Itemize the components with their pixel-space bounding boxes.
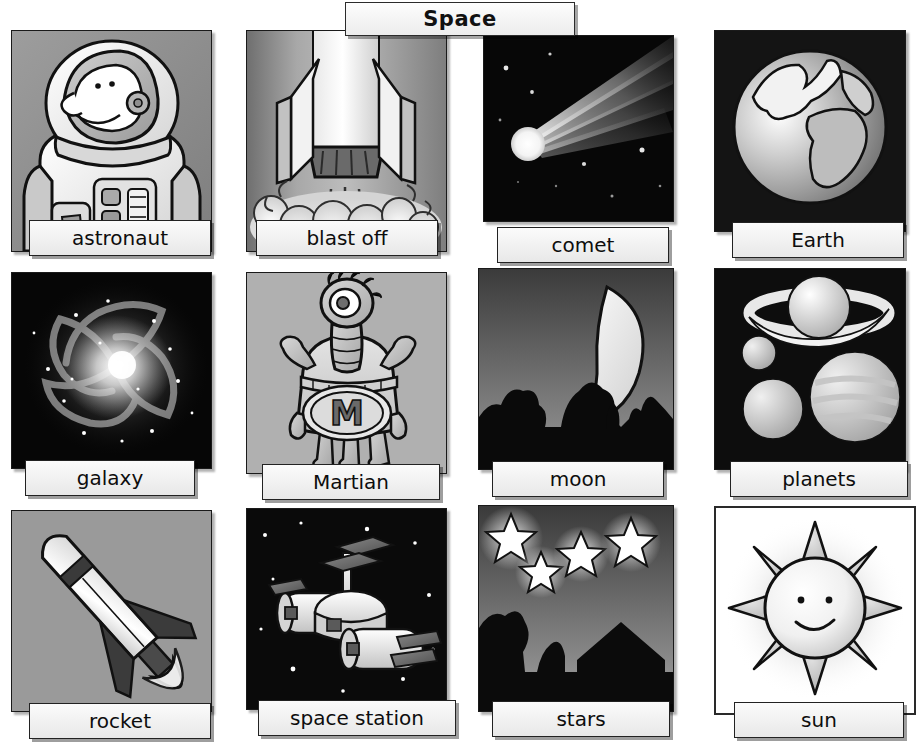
card-label-earth: Earth	[732, 222, 904, 258]
card-stars[interactable]: stars	[478, 505, 683, 745]
planets-illustration	[715, 269, 905, 469]
card-sun[interactable]: sun	[714, 506, 916, 746]
card-image-moon	[478, 268, 674, 470]
card-label-moon: moon	[492, 461, 664, 497]
card-image-astronaut	[11, 30, 212, 252]
rocket-launch-illustration	[247, 31, 446, 251]
card-martian[interactable]: M Martian	[246, 272, 456, 502]
card-image-galaxy	[11, 272, 212, 469]
card-image-comet	[483, 35, 674, 222]
card-image-sun	[714, 506, 916, 715]
card-image-planets	[714, 268, 906, 470]
martian-alien-illustration: M	[247, 273, 446, 473]
spiral-galaxy-photo	[12, 273, 211, 468]
card-label-stars: stars	[492, 701, 670, 737]
card-label-astronaut: astronaut	[29, 220, 211, 256]
card-blast-off[interactable]: blast off	[246, 30, 456, 265]
card-image-earth	[714, 30, 906, 232]
stars-night-illustration	[479, 506, 673, 711]
card-rocket[interactable]: rocket	[11, 510, 221, 745]
card-label-sun: sun	[734, 702, 904, 738]
card-comet[interactable]: comet	[483, 35, 683, 265]
rocket-illustration	[12, 511, 211, 711]
svg-text:M: M	[330, 393, 364, 433]
astronaut-illustration	[12, 31, 211, 251]
card-image-blast-off	[246, 30, 447, 252]
card-image-rocket	[11, 510, 212, 712]
card-label-space-station: space station	[258, 700, 456, 736]
space-station-illustration	[247, 509, 446, 709]
card-label-planets: planets	[730, 461, 908, 497]
card-galaxy[interactable]: galaxy	[11, 272, 221, 502]
smiling-sun-illustration	[716, 508, 914, 713]
vocabulary-grid: astronaut	[0, 0, 916, 748]
card-space-station[interactable]: space station	[246, 508, 456, 746]
comet-photo	[484, 36, 673, 221]
card-image-space-station	[246, 508, 447, 710]
card-label-blast-off: blast off	[256, 220, 438, 256]
page-title-text: Space	[423, 7, 497, 31]
card-image-stars	[478, 505, 674, 712]
card-astronaut[interactable]: astronaut	[11, 30, 221, 265]
card-moon[interactable]: moon	[478, 268, 683, 503]
crescent-moon-illustration	[479, 269, 673, 469]
earth-globe-illustration	[715, 31, 905, 231]
card-label-galaxy: galaxy	[25, 460, 195, 496]
page-title: Space	[345, 2, 575, 36]
card-label-comet: comet	[497, 227, 669, 263]
card-image-martian: M	[246, 272, 447, 474]
card-earth[interactable]: Earth	[714, 30, 914, 265]
card-label-martian: Martian	[262, 464, 440, 500]
card-planets[interactable]: planets	[714, 268, 916, 503]
card-label-rocket: rocket	[29, 703, 211, 739]
